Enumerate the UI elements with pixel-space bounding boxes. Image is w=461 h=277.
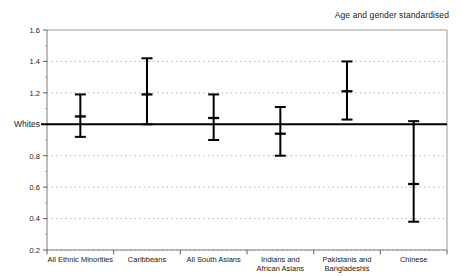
whites-axis-label: Whites — [14, 119, 40, 129]
error-bar-marker — [342, 61, 353, 119]
y-axis-tick-label: 0.4 — [30, 214, 40, 223]
y-axis-tick-label: 1.6 — [30, 26, 40, 35]
x-axis-category-label: Pakistanis and — [323, 255, 372, 264]
x-axis-category-label: Bangladeshis — [324, 264, 369, 273]
x-axis-category-label: Indians and — [261, 255, 300, 264]
x-axis-category-label: All Ethnic Minorities — [48, 255, 114, 264]
error-bar-plot: 1.61.41.2Whites0.80.60.40.2All Ethnic Mi… — [0, 0, 461, 277]
y-axis-tick-label: 0.8 — [30, 152, 40, 161]
y-axis-tick-label: 0.2 — [30, 246, 40, 255]
error-bar-marker — [75, 94, 86, 136]
chart-container: Age and gender standardised 1.61.41.2Whi… — [0, 0, 461, 277]
y-axis-tick-label: 0.6 — [30, 183, 40, 192]
error-bar-marker — [208, 94, 219, 140]
x-axis-category-label: African Asians — [257, 264, 305, 273]
x-axis-category-label: Chinese — [400, 255, 428, 264]
y-axis-tick-label: 1.2 — [30, 89, 40, 98]
error-bar-marker — [408, 121, 419, 222]
y-axis-tick-label: 1.4 — [30, 57, 40, 66]
x-axis-category-label: Caribbeans — [128, 255, 167, 264]
x-axis-category-label: All South Asians — [187, 255, 241, 264]
error-bar-marker — [275, 107, 286, 156]
error-bar-marker — [142, 58, 153, 124]
